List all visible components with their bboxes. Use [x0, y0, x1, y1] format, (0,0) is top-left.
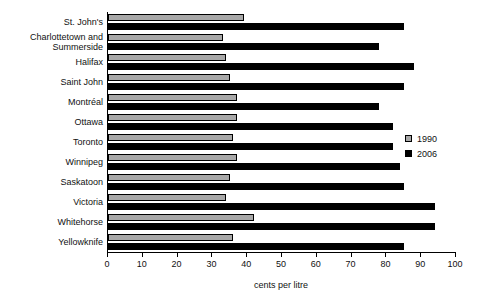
- bar-1990: [108, 134, 233, 141]
- bar-group: [108, 192, 456, 212]
- bar-2006: [108, 103, 379, 110]
- x-tick-label: 20: [172, 259, 182, 269]
- bar-1990: [108, 174, 230, 181]
- category-label: Whitehorse: [0, 217, 103, 227]
- category-label: Saint John: [0, 77, 103, 87]
- bar-chart: St. John'sCharlottetown and SummersideHa…: [0, 0, 496, 307]
- bar-group: [108, 92, 456, 112]
- bar-1990: [108, 214, 254, 221]
- bar-2006: [108, 243, 404, 250]
- bar-group: [108, 132, 456, 152]
- bar-2006: [108, 63, 414, 70]
- x-tick-label: 70: [346, 259, 356, 269]
- black-swatch-icon: [405, 150, 412, 157]
- category-label: Ottawa: [0, 117, 103, 127]
- legend-label-2006: 2006: [417, 149, 437, 159]
- category-label: Saskatoon: [0, 177, 103, 187]
- bar-1990: [108, 94, 237, 101]
- bar-1990: [108, 154, 237, 161]
- x-tick-label: 60: [311, 259, 321, 269]
- category-label: Montréal: [0, 97, 103, 107]
- legend-item-1990: 1990: [405, 131, 475, 146]
- gray-swatch-icon: [405, 135, 412, 142]
- bar-2006: [108, 163, 400, 170]
- x-tick-label: 90: [415, 259, 425, 269]
- x-tick-label: 10: [137, 259, 147, 269]
- bar-1990: [108, 14, 244, 21]
- x-tick-label: 40: [241, 259, 251, 269]
- category-label: Victoria: [0, 197, 103, 207]
- bar-2006: [108, 123, 393, 130]
- x-tick-label: 100: [447, 259, 462, 269]
- bar-group: [108, 112, 456, 132]
- bar-1990: [108, 54, 226, 61]
- category-label: Toronto: [0, 137, 103, 147]
- x-axis-tick-labels: 0102030405060708090100: [107, 253, 456, 269]
- chart-legend: 1990 2006: [405, 131, 475, 161]
- bar-group: [108, 212, 456, 232]
- bar-group: [108, 12, 456, 32]
- bar-group: [108, 152, 456, 172]
- x-tick-label: 80: [380, 259, 390, 269]
- bar-1990: [108, 74, 230, 81]
- bar-group: [108, 232, 456, 252]
- plot-area: [107, 12, 456, 253]
- bar-1990: [108, 114, 237, 121]
- bar-2006: [108, 23, 404, 30]
- x-axis-title: cents per litre: [107, 280, 455, 290]
- x-tick-label: 50: [276, 259, 286, 269]
- category-label: Winnipeg: [0, 157, 103, 167]
- category-label: Charlottetown and Summerside: [0, 32, 103, 52]
- bar-group: [108, 172, 456, 192]
- bar-2006: [108, 43, 379, 50]
- x-tick-label: 0: [104, 259, 109, 269]
- x-tick-label: 30: [206, 259, 216, 269]
- legend-item-2006: 2006: [405, 146, 475, 161]
- category-label: Halifax: [0, 57, 103, 67]
- bar-1990: [108, 194, 226, 201]
- category-label: Yellowknife: [0, 237, 103, 247]
- category-label: St. John's: [0, 17, 103, 27]
- bar-2006: [108, 203, 435, 210]
- bar-2006: [108, 83, 404, 90]
- bar-group: [108, 52, 456, 72]
- y-axis-category-labels: St. John'sCharlottetown and SummersideHa…: [0, 12, 103, 252]
- legend-label-1990: 1990: [417, 134, 437, 144]
- bar-1990: [108, 234, 233, 241]
- bar-group: [108, 72, 456, 92]
- bar-1990: [108, 34, 223, 41]
- bar-2006: [108, 223, 435, 230]
- bar-2006: [108, 183, 404, 190]
- bar-2006: [108, 143, 393, 150]
- bar-group: [108, 32, 456, 52]
